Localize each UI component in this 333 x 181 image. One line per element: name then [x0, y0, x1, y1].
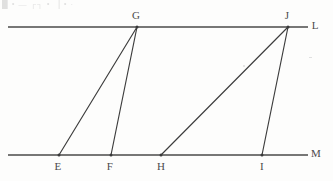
figure-canvas: [0, 0, 333, 181]
triangle-HIJ: [161, 27, 288, 155]
point-label-I: I: [260, 161, 264, 172]
triangle-EFG: [59, 27, 137, 155]
segment-EG: [59, 27, 137, 155]
line-label-L: L: [312, 20, 319, 31]
geometry-figure: █ • — ┌┐ • ▕ • · E F G H I J L M: [0, 0, 333, 181]
vertex-dots: [58, 26, 290, 157]
parallel-rails: [8, 27, 308, 155]
vertex-dot-G: [136, 26, 139, 29]
line-label-M: M: [311, 148, 321, 159]
vertex-dot-H: [160, 154, 163, 157]
vertex-dot-I: [261, 154, 264, 157]
point-label-H: H: [157, 161, 165, 172]
point-label-F: F: [107, 161, 113, 172]
vertex-dot-E: [58, 154, 61, 157]
point-label-E: E: [55, 161, 62, 172]
segment-FG: [111, 27, 137, 155]
vertex-dot-J: [287, 26, 290, 29]
segment-HJ: [161, 27, 288, 155]
segment-IJ: [262, 27, 288, 155]
point-label-J: J: [285, 10, 289, 21]
point-label-G: G: [132, 10, 140, 21]
vertex-dot-F: [110, 154, 113, 157]
